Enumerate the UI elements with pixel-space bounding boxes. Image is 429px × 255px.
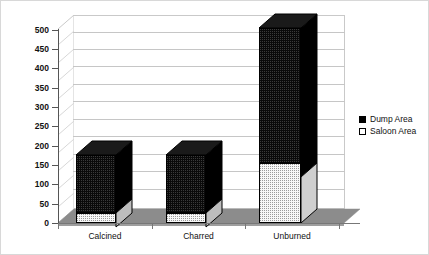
bar-3d-faces-unburned <box>259 10 317 235</box>
y-axis-label-350: 350 <box>3 83 49 93</box>
bar-group-charred <box>166 1 206 255</box>
x-axis-tick <box>152 223 153 229</box>
x-axis-tick <box>245 223 246 229</box>
y-axis-tick <box>52 88 58 89</box>
bar-group-unburned <box>259 1 301 255</box>
legend-item-saloon-area: Saloon Area <box>359 125 416 137</box>
y-axis-label-500: 500 <box>3 25 49 35</box>
legend-swatch-dump-area <box>359 116 366 123</box>
y-axis-tick <box>52 146 58 147</box>
y-axis-line <box>58 29 59 223</box>
y-axis-label-200: 200 <box>3 141 49 151</box>
y-axis-label-100: 100 <box>3 179 49 189</box>
y-axis-tick <box>52 165 58 166</box>
y-axis-tick <box>52 30 58 31</box>
y-axis-label-400: 400 <box>3 63 49 73</box>
y-axis-tick <box>52 49 58 50</box>
y-axis-label-250: 250 <box>3 121 49 131</box>
x-axis-tick <box>58 223 59 229</box>
legend-label-saloon-area: Saloon Area <box>370 125 416 137</box>
bar-3d-faces-calcined <box>76 137 132 229</box>
x-axis-line <box>58 223 360 224</box>
y-axis-tick <box>52 107 58 108</box>
chart-left-wall <box>58 15 74 223</box>
bar-group-calcined <box>76 1 116 255</box>
y-axis-tick <box>52 204 58 205</box>
y-axis-tick <box>52 126 58 127</box>
y-axis-tick <box>52 184 58 185</box>
x-axis-tick <box>339 223 340 229</box>
x-axis-label-unburned: Unburned <box>245 231 339 241</box>
legend-label-dump-area: Dump Area <box>370 113 413 125</box>
legend-swatch-saloon-area <box>359 128 366 135</box>
y-axis-label-0: 0 <box>3 218 49 228</box>
y-axis-label-450: 450 <box>3 44 49 54</box>
plot-area: 0 50 100 150 200 250 300 350 400 450 500 <box>1 1 429 255</box>
y-axis-tick <box>52 68 58 69</box>
chart-container: 0 50 100 150 200 250 300 350 400 450 500 <box>0 0 429 255</box>
y-axis-label-50: 50 <box>3 199 49 209</box>
legend-item-dump-area: Dump Area <box>359 113 416 125</box>
y-axis-label-300: 300 <box>3 102 49 112</box>
bar-3d-faces-charred <box>166 137 222 229</box>
x-axis-label-charred: Charred <box>152 231 245 241</box>
x-axis-label-calcined: Calcined <box>58 231 152 241</box>
chart-legend: Dump Area Saloon Area <box>359 113 416 137</box>
y-axis-label-150: 150 <box>3 160 49 170</box>
